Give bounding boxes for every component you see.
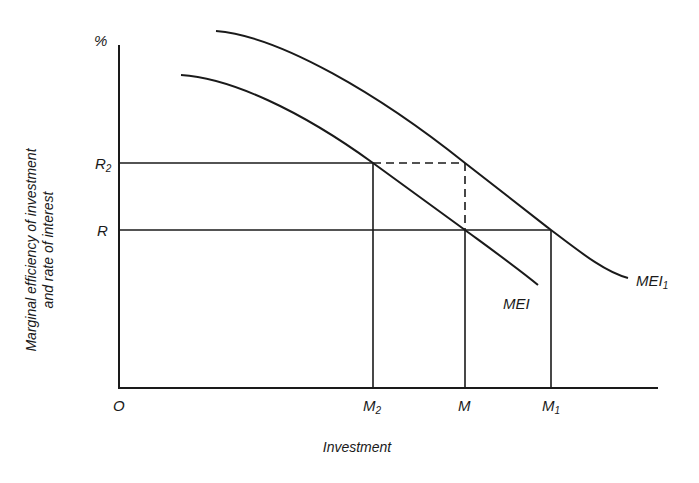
y-axis-title: Marginal efficiency of investment and ra…	[23, 148, 57, 351]
r2-label: R2	[95, 156, 111, 174]
mei-curve	[181, 75, 538, 285]
mei1-curve	[216, 31, 628, 278]
r-label: R	[97, 223, 108, 238]
m-label: M	[458, 398, 471, 413]
y-unit-label: %	[94, 33, 107, 48]
x-axis-title: Investment	[323, 439, 391, 455]
mei-curve-label: MEI	[503, 296, 530, 311]
diagram-canvas	[0, 0, 699, 483]
origin-label: O	[113, 398, 125, 413]
y-axis-title-line2: and rate of interest	[40, 148, 57, 351]
y-axis-title-line1: Marginal efficiency of investment	[23, 148, 40, 351]
mei1-curve-label: MEI1	[636, 273, 668, 291]
m1-label: M1	[542, 398, 560, 416]
m2-label: M2	[363, 398, 381, 416]
